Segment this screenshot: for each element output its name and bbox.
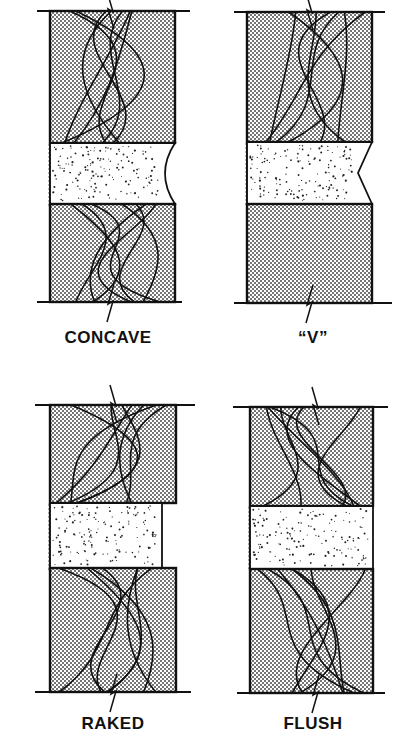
brick-texture	[250, 407, 373, 506]
mortar-speckle	[322, 199, 323, 200]
mortar-speckle	[118, 551, 120, 553]
mortar-speckle	[275, 177, 277, 179]
mortar-speckle	[95, 519, 96, 520]
mortar-speckle	[148, 547, 150, 549]
mortar-speckle	[311, 518, 313, 520]
mortar-speckle	[94, 147, 95, 148]
mortar-speckle	[296, 196, 298, 198]
mortar-speckle	[260, 148, 262, 150]
mortar-speckle	[251, 163, 252, 164]
mortar-speckle	[70, 551, 71, 552]
mortar-speckle	[60, 551, 62, 553]
mortar-speckle	[259, 534, 260, 535]
mortar-speckle	[275, 153, 277, 155]
mortar-speckle	[289, 533, 291, 535]
mortar-joint-v	[246, 142, 372, 206]
mortar-speckle	[116, 167, 118, 169]
mortar-speckle	[147, 561, 148, 562]
mortar-speckle	[135, 515, 137, 517]
mortar-speckle	[345, 192, 347, 194]
mortar-speckle	[328, 186, 330, 188]
mortar-fill	[250, 506, 373, 569]
mortar-speckle	[318, 185, 319, 186]
mortar-speckle	[92, 196, 94, 198]
mortar-speckle	[118, 522, 120, 524]
mortar-speckle	[259, 196, 261, 198]
mortar-speckle	[72, 182, 73, 183]
mortar-speckle	[87, 519, 88, 520]
mortar-speckle	[258, 509, 259, 510]
mortar-speckle	[74, 520, 76, 522]
mortar-speckle	[310, 526, 311, 527]
mortar-speckle	[132, 153, 133, 154]
mortar-speckle	[252, 518, 254, 520]
mortar-speckle	[259, 185, 260, 186]
top-brick	[247, 12, 372, 142]
mortar-speckle	[339, 550, 340, 551]
mortar-speckle	[109, 507, 110, 508]
mortar-speckle	[336, 189, 338, 191]
mortar-speckle	[123, 154, 125, 156]
mortar-speckle	[137, 512, 138, 513]
mortar-speckle	[69, 560, 71, 562]
bottom-brick	[250, 569, 373, 693]
mortar-speckle	[59, 544, 61, 546]
mortar-speckle	[72, 521, 74, 523]
mortar-speckle	[260, 171, 262, 173]
mortar-speckle	[125, 181, 127, 183]
mortar-speckle	[119, 549, 120, 550]
mortar-speckle	[63, 170, 65, 172]
mortar-left-edge	[49, 143, 50, 207]
mortar-speckle	[130, 192, 131, 193]
mortar-speckle	[93, 517, 95, 519]
mortar-speckle	[294, 530, 295, 531]
mortar-speckle	[55, 518, 57, 520]
mortar-speckle	[264, 177, 266, 179]
mortar-speckle	[347, 540, 349, 542]
mortar-speckle	[90, 165, 91, 166]
mortar-speckle	[300, 545, 302, 547]
mortar-speckle	[343, 520, 344, 521]
mortar-speckle	[61, 194, 62, 195]
mortar-speckle	[318, 535, 320, 537]
mortar-speckle	[149, 505, 151, 507]
mortar-speckle	[92, 161, 94, 163]
mortar-speckle	[302, 149, 304, 151]
top-brick	[50, 11, 175, 143]
mortar-speckle	[65, 189, 67, 191]
mortar-speckle	[95, 173, 96, 174]
mortar-speckle	[119, 151, 120, 152]
mortar-speckle	[269, 534, 271, 536]
mortar-speckle	[324, 555, 326, 557]
mortar-speckle	[279, 179, 281, 181]
mortar-speckle	[86, 190, 88, 192]
mortar-speckle	[302, 200, 303, 201]
mortar-speckle	[134, 150, 136, 152]
mortar-speckle	[109, 174, 111, 176]
mortar-speckle	[334, 547, 335, 548]
mortar-speckle	[107, 194, 109, 196]
mortar-speckle	[57, 534, 59, 536]
mortar-speckle	[330, 160, 332, 162]
mortar-speckle	[84, 189, 85, 190]
mortar-speckle	[268, 148, 269, 149]
mortar-speckle	[152, 563, 154, 565]
mortar-speckle	[262, 162, 264, 164]
mortar-speckle	[98, 528, 99, 529]
mortar-speckle	[266, 160, 268, 162]
mortar-speckle	[153, 166, 155, 168]
mortar-speckle	[365, 557, 366, 558]
mortar-speckle	[112, 177, 113, 178]
mortar-speckle	[334, 165, 336, 167]
mortar-joint-raked	[49, 503, 162, 571]
mortar-speckle	[64, 518, 65, 519]
mortar-speckle	[297, 160, 299, 162]
mortar-speckle	[317, 173, 318, 174]
mortar-speckle	[361, 527, 362, 528]
mortar-speckle	[258, 552, 259, 553]
mortar-speckle	[267, 172, 269, 174]
mortar-speckle	[81, 514, 83, 516]
panel-raked	[35, 385, 195, 712]
mortar-speckle	[84, 166, 86, 168]
mortar-speckle	[148, 177, 149, 178]
